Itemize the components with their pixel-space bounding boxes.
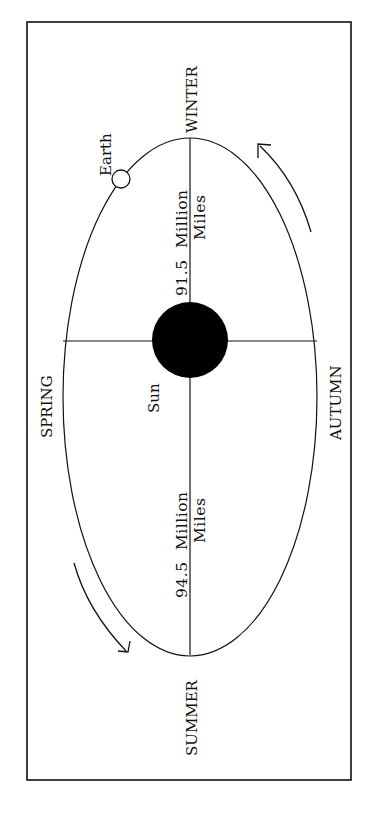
diagram-frame xyxy=(27,22,351,780)
distance-near-value: 91.5 Million xyxy=(173,190,191,296)
orbit-direction-arrow-bottom-left xyxy=(74,563,130,652)
orbit-diagram: WINTER Earth 91.5 Million Miles SPRING S… xyxy=(0,0,368,821)
distance-far-unit: Miles xyxy=(191,498,209,543)
season-label-autumn: AUTUMN xyxy=(327,365,345,441)
season-label-spring: SPRING xyxy=(38,375,56,438)
distance-far-value: 94.5 Million xyxy=(173,492,191,598)
distance-near-unit: Miles xyxy=(191,195,209,240)
sun-label: Sun xyxy=(145,383,163,413)
sun-icon xyxy=(152,302,228,378)
earth-label: Earth xyxy=(97,133,115,176)
season-label-summer: SUMMER xyxy=(183,679,201,756)
season-label-winter: WINTER xyxy=(183,66,201,133)
orbit-direction-arrow-top-right xyxy=(258,144,311,232)
